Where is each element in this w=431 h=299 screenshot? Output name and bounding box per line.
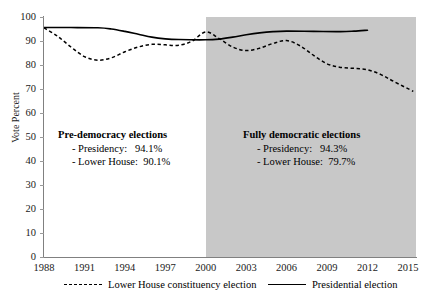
chart-legend: Lower House constituency election Presid… xyxy=(0,277,431,297)
y-tick-label: 60 xyxy=(2,108,36,118)
x-tick-label: 1994 xyxy=(105,262,145,273)
legend-item-lower-house: Lower House constituency election xyxy=(64,279,256,290)
x-tick-label: 2009 xyxy=(307,262,347,273)
annotation-line-value: 94.1% xyxy=(135,143,162,154)
x-tick-label: 1997 xyxy=(145,262,185,273)
y-tick-label: 100 xyxy=(2,12,36,22)
annotation-line-label: - Lower House: xyxy=(257,155,323,169)
y-tick-label: 30 xyxy=(2,180,36,190)
x-tick-label: 1991 xyxy=(64,262,104,273)
annotation-line-label: - Lower House: xyxy=(72,155,138,169)
y-tick-label: 0 xyxy=(2,252,36,262)
series-line-presidential xyxy=(44,28,367,40)
y-tick-mark xyxy=(40,257,44,258)
x-tick-label: 2000 xyxy=(186,262,226,273)
annotation-line: - Lower House: 79.7% xyxy=(243,155,360,169)
x-axis-line xyxy=(43,257,417,258)
y-tick-label: 70 xyxy=(2,84,36,94)
annotation-pre-democracy: Pre-democracy elections - Presidency: 94… xyxy=(58,128,170,169)
annotation-line: - Lower House: 90.1% xyxy=(58,155,170,169)
annotation-line: - Presidency: 94.1% xyxy=(58,142,170,156)
annotation-line-value: 79.7% xyxy=(328,156,355,167)
x-tick-label: 2006 xyxy=(267,262,307,273)
annotation-line-value: 90.1% xyxy=(143,156,170,167)
x-tick-label: 2012 xyxy=(347,262,387,273)
annotation-heading: Pre-democracy elections xyxy=(58,128,170,142)
legend-swatch-solid-icon xyxy=(268,284,306,285)
legend-label: Presidential election xyxy=(312,279,397,290)
chart-root: Vote Percent 0102030405060708090100 1988… xyxy=(0,0,431,299)
x-tick-label: 2015 xyxy=(388,262,428,273)
annotation-line: - Presidency: 94.3% xyxy=(243,142,360,156)
y-tick-label: 20 xyxy=(2,204,36,214)
y-tick-label: 80 xyxy=(2,60,36,70)
y-tick-label: 40 xyxy=(2,156,36,166)
annotation-line-label: - Presidency: xyxy=(257,142,312,156)
legend-label: Lower House constituency election xyxy=(108,279,256,290)
legend-swatch-dashed-icon xyxy=(64,284,102,285)
y-tick-label: 10 xyxy=(2,228,36,238)
annotation-line-value: 94.3% xyxy=(320,143,347,154)
x-tick-label: 2003 xyxy=(226,262,266,273)
y-tick-label: 90 xyxy=(2,36,36,46)
annotation-heading: Fully democratic elections xyxy=(243,128,360,142)
x-tick-label: 1988 xyxy=(24,262,64,273)
annotation-line-label: - Presidency: xyxy=(72,142,127,156)
legend-item-presidential: Presidential election xyxy=(268,279,397,290)
y-tick-label: 50 xyxy=(2,132,36,142)
annotation-fully-democratic: Fully democratic elections - Presidency:… xyxy=(243,128,360,169)
